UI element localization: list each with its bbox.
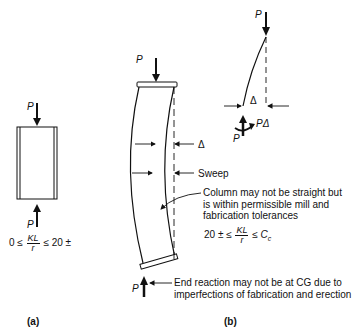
moment-label-fb: PΔ <box>256 118 269 129</box>
load-arrow-b-top <box>152 58 160 82</box>
delta-label-b: Δ <box>198 139 205 150</box>
kl-over-r-b: KLr <box>235 226 248 245</box>
load-label-a-bottom: P <box>27 219 34 230</box>
slenderness-range-b: 20 ± ≤ KLr ≤ Cc <box>204 226 271 245</box>
moment-arrow-fb <box>235 123 255 131</box>
reaction-arrow-fb <box>239 115 247 136</box>
caption-a: (a) <box>27 316 39 327</box>
end-reaction-note: End reaction may not be at CG due to imp… <box>174 277 351 300</box>
caption-b: (b) <box>224 316 237 327</box>
load-arrow-a-top <box>33 103 41 126</box>
load-label-b-top: P <box>136 54 143 65</box>
load-label-a-top: P <box>27 101 34 112</box>
column-straightness-note: Column may not be straight but is within… <box>203 187 342 222</box>
load-arrow-fb-top <box>262 12 270 36</box>
delta-label-fb: Δ <box>250 95 257 106</box>
load-label-b-bottom: P <box>132 283 139 294</box>
column-a <box>17 127 57 199</box>
reaction-label-fb: P <box>233 133 240 144</box>
load-arrow-a-bottom <box>33 204 41 227</box>
load-label-fb-top: P <box>255 9 262 20</box>
sweep-label: Sweep <box>198 168 229 179</box>
column-b <box>130 82 177 269</box>
load-arrow-b-bottom <box>140 276 148 297</box>
kl-over-r-a: KLr <box>27 234 40 253</box>
slenderness-range-a: 0 ≤ KLr ≤ 20 ± <box>9 234 71 253</box>
